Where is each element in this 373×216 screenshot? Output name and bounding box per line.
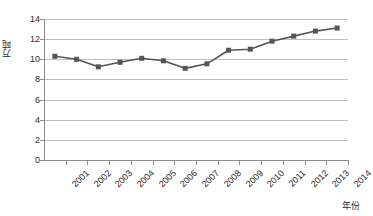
x-tick-label: 2013: [330, 168, 351, 189]
x-tick-label: 2002: [91, 168, 112, 189]
x-tick-label: 2004: [135, 168, 156, 189]
y-tick-mark: [40, 140, 44, 141]
x-tick-mark: [305, 161, 306, 165]
y-tick-mark: [40, 19, 44, 20]
x-tick-mark: [66, 161, 67, 165]
x-axis-title: 年份: [342, 199, 360, 212]
x-tick-label: 2012: [309, 168, 330, 189]
y-tick-mark: [40, 100, 44, 101]
x-tick-label: 2011: [287, 168, 308, 189]
y-tick-mark: [40, 39, 44, 40]
x-tick-mark: [153, 161, 154, 165]
x-tick-mark: [326, 161, 327, 165]
y-tick-mark: [40, 79, 44, 80]
x-tick-mark: [239, 161, 240, 165]
x-tick-label: 2003: [113, 168, 134, 189]
x-tick-mark: [131, 161, 132, 165]
x-tick-mark: [283, 161, 284, 165]
x-tick-mark: [348, 161, 349, 165]
y-tick-mark: [40, 120, 44, 121]
x-tick-mark: [87, 161, 88, 165]
x-tick-label: 2008: [222, 168, 243, 189]
x-tick-label: 2009: [243, 168, 264, 189]
x-tick-label: 2007: [200, 168, 221, 189]
y-tick-mark: [40, 160, 44, 161]
x-tick-label: 2010: [265, 168, 286, 189]
x-tick-mark: [261, 161, 262, 165]
x-tick-mark: [196, 161, 197, 165]
x-tick-mark: [218, 161, 219, 165]
x-tick-mark: [174, 161, 175, 165]
x-tick-label: 2001: [70, 168, 91, 189]
x-tick-label: 2014: [352, 168, 373, 189]
x-tick-label: 2005: [157, 168, 178, 189]
x-tick-mark: [109, 161, 110, 165]
x-tick-label: 2006: [178, 168, 199, 189]
y-tick-mark: [40, 59, 44, 60]
